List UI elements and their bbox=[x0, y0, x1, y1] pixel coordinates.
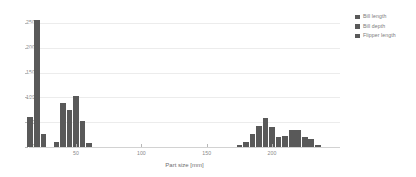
bar[interactable] bbox=[80, 121, 86, 147]
gridline-y-200 bbox=[29, 48, 340, 49]
gridline-y-250 bbox=[29, 23, 340, 24]
x-axis-line bbox=[29, 147, 340, 148]
bar[interactable] bbox=[41, 134, 47, 147]
x-tick-mark-150 bbox=[207, 144, 208, 147]
x-tick-label-200: 200 bbox=[259, 151, 285, 156]
x-tick-label-100: 100 bbox=[128, 151, 154, 156]
y-tick-mark-200 bbox=[25, 48, 28, 49]
gridline-y-150 bbox=[29, 73, 340, 74]
bar[interactable] bbox=[295, 130, 301, 147]
y-tick-mark-250 bbox=[25, 23, 28, 24]
legend-label: Bill length bbox=[363, 14, 387, 19]
bar[interactable] bbox=[67, 110, 73, 147]
legend-label: Bill depth bbox=[363, 24, 385, 29]
x-tick-mark-100 bbox=[141, 144, 142, 147]
x-tick-label-150: 150 bbox=[194, 151, 220, 156]
x-tick-label-50: 50 bbox=[63, 151, 89, 156]
histogram-chart: 050100150200250 50100150200 Part size [m… bbox=[0, 0, 416, 177]
bar[interactable] bbox=[302, 137, 308, 147]
y-tick-mark-0 bbox=[25, 147, 28, 148]
x-axis-title: Part size [mm] bbox=[29, 162, 340, 168]
bar[interactable] bbox=[282, 136, 288, 147]
legend-item-2[interactable]: Flipper length bbox=[355, 32, 415, 40]
bar[interactable] bbox=[289, 130, 295, 147]
legend-swatch-icon bbox=[355, 24, 360, 29]
legend-item-1[interactable]: Bill depth bbox=[355, 23, 415, 31]
bar[interactable] bbox=[276, 137, 282, 147]
legend-label: Flipper length bbox=[363, 33, 396, 38]
bar[interactable] bbox=[60, 103, 66, 147]
plot-area bbox=[29, 14, 340, 147]
legend-swatch-icon bbox=[355, 34, 360, 39]
bar[interactable] bbox=[34, 20, 40, 147]
bar[interactable] bbox=[263, 118, 269, 147]
y-tick-mark-150 bbox=[25, 73, 28, 74]
bar[interactable] bbox=[27, 117, 33, 147]
bar[interactable] bbox=[256, 126, 262, 147]
bar[interactable] bbox=[308, 139, 314, 147]
x-tick-mark-50 bbox=[76, 144, 77, 147]
x-tick-mark-200 bbox=[272, 144, 273, 147]
bar[interactable] bbox=[250, 134, 256, 147]
chart-legend: Bill lengthBill depthFlipper length bbox=[355, 13, 415, 42]
y-tick-mark-100 bbox=[25, 97, 28, 98]
legend-item-0[interactable]: Bill length bbox=[355, 13, 415, 21]
bar[interactable] bbox=[73, 96, 79, 147]
legend-swatch-icon bbox=[355, 15, 360, 20]
